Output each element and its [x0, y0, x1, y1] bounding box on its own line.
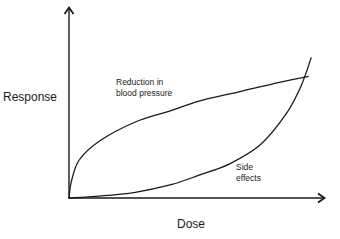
x-axis-label: Dose [177, 217, 205, 231]
annotation-blood-pressure-line2: blood pressure [116, 88, 172, 99]
dose-response-diagram [0, 0, 340, 239]
annotation-side-effects: Side effects [236, 162, 261, 184]
annotation-side-effects-line1: Side [236, 162, 261, 173]
curve-side-effects [69, 57, 311, 198]
curve-blood-pressure-reduction [69, 76, 309, 198]
y-axis-label: Response [3, 90, 57, 104]
annotation-blood-pressure: Reduction in blood pressure [116, 77, 172, 99]
annotation-blood-pressure-line1: Reduction in [116, 77, 172, 88]
annotation-side-effects-line2: effects [236, 173, 261, 184]
